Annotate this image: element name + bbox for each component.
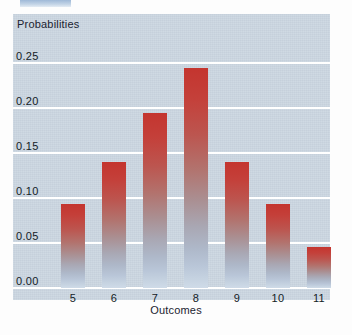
y-tick-label: 0.25 bbox=[16, 50, 39, 62]
top-edge-fragment bbox=[20, 0, 71, 7]
y-axis-title: Probabilities bbox=[17, 18, 80, 30]
chart-plot-area: Probabilities 0.000.050.100.150.200.25 5… bbox=[13, 14, 330, 300]
x-tick-label: 7 bbox=[152, 292, 158, 304]
y-tick-label: 0.05 bbox=[16, 230, 39, 242]
x-axis-title: Outcomes bbox=[0, 304, 352, 316]
y-tick-label: 0.00 bbox=[16, 275, 39, 287]
x-tick-label: 6 bbox=[111, 292, 117, 304]
x-tick-label: 9 bbox=[234, 292, 240, 304]
x-axis-tick-labels: 567891011 bbox=[13, 288, 330, 304]
y-tick-label: 0.20 bbox=[16, 95, 39, 107]
x-tick-label: 10 bbox=[272, 292, 285, 304]
x-tick-label: 8 bbox=[193, 292, 199, 304]
x-tick-label: 11 bbox=[313, 292, 325, 304]
x-tick-label: 5 bbox=[70, 292, 76, 304]
y-tick-label: 0.15 bbox=[16, 140, 39, 152]
y-axis-tick-labels: 0.000.050.100.150.200.25 bbox=[13, 14, 330, 300]
y-tick-label: 0.10 bbox=[16, 185, 39, 197]
